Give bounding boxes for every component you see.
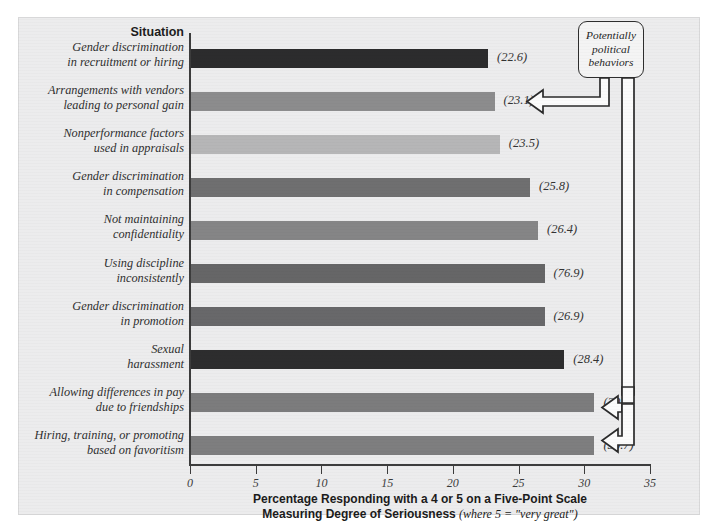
figure-chart-serious-situations: Situation Gender discriminationin recrui… bbox=[0, 0, 716, 530]
bar bbox=[191, 135, 500, 154]
annotation-callout-text: Potentiallypoliticalbehaviors bbox=[586, 29, 636, 70]
x-axis-title-line-1: Percentage Responding with a 4 or 5 on a… bbox=[189, 492, 651, 507]
x-axis-tick bbox=[387, 466, 388, 474]
bar bbox=[191, 436, 594, 455]
bar-value-label: (23.5) bbox=[509, 136, 539, 151]
x-axis-line bbox=[189, 464, 651, 466]
x-axis-tick bbox=[584, 466, 585, 474]
bar-value-label: (28.4) bbox=[573, 352, 603, 367]
plot-area: 05101520253035(22.6)(23.1)(23.5)(25.8)(2… bbox=[0, 0, 716, 530]
bar-value-label: (26.9) bbox=[554, 309, 584, 324]
bar bbox=[191, 393, 594, 412]
bar-value-label: (26.4) bbox=[547, 222, 577, 237]
bar-value-label: (23.1) bbox=[504, 93, 534, 108]
callout-line-3: behaviors bbox=[589, 56, 634, 68]
bar bbox=[191, 221, 538, 240]
bar-value-label: (22.6) bbox=[497, 50, 527, 65]
bar bbox=[191, 264, 545, 283]
x-axis-title-line-2-bold: Measuring Degree of Seriousness bbox=[262, 507, 459, 521]
bar-value-label: (25.8) bbox=[539, 179, 569, 194]
bar bbox=[191, 178, 530, 197]
x-axis-tick bbox=[321, 466, 322, 474]
bar bbox=[191, 92, 495, 111]
bar bbox=[191, 307, 545, 326]
bar-value-label: (30.7) bbox=[603, 438, 633, 453]
bar-value-label: (30.7) bbox=[603, 395, 633, 410]
x-axis-tick-label: 15 bbox=[367, 476, 407, 491]
annotation-callout-political-behaviors: Potentiallypoliticalbehaviors bbox=[578, 21, 644, 78]
x-axis-tick-label: 25 bbox=[499, 476, 539, 491]
x-axis-title-line-2-italic: (where 5 = "very great") bbox=[459, 507, 578, 521]
bar bbox=[191, 350, 564, 369]
x-axis-tick bbox=[519, 466, 520, 474]
x-axis-tick bbox=[256, 466, 257, 474]
x-axis-tick bbox=[190, 466, 191, 474]
x-axis-tick-label: 0 bbox=[170, 476, 210, 491]
x-axis-tick-label: 10 bbox=[301, 476, 341, 491]
x-axis-title: Percentage Responding with a 4 or 5 on a… bbox=[189, 492, 651, 522]
x-axis-title-line-2: Measuring Degree of Seriousness (where 5… bbox=[189, 507, 651, 522]
x-axis-tick-label: 30 bbox=[564, 476, 604, 491]
callout-line-2: political bbox=[592, 43, 630, 55]
x-axis-tick bbox=[453, 466, 454, 474]
x-axis-tick-label: 20 bbox=[433, 476, 473, 491]
x-axis-tick bbox=[650, 466, 651, 474]
bar-value-label: (76.9) bbox=[554, 266, 584, 281]
x-axis-tick-label: 5 bbox=[236, 476, 276, 491]
bar bbox=[191, 49, 488, 68]
x-axis-tick-label: 35 bbox=[630, 476, 670, 491]
callout-line-1: Potentially bbox=[586, 29, 636, 41]
